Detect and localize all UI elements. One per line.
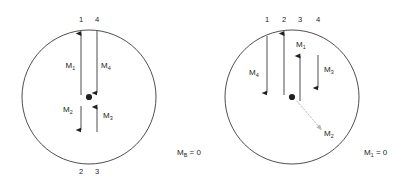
- right-node-number-3: 3: [298, 15, 302, 24]
- left-node-number-2: 2: [79, 167, 83, 176]
- right-circle-diagram: 1 2 3 4 M4 M1 M3 M2 M1 = 0: [225, 15, 388, 164]
- figure-container: 1 4 2 3 M1 M4 M2 M3 MB = 0 1: [0, 0, 415, 178]
- left-moment-label-m2: M2: [63, 105, 73, 115]
- right-moment-label-m2: M2: [324, 129, 334, 139]
- left-caption-moment-equation: MB = 0: [177, 148, 201, 158]
- left-moment-label-m3: M3: [103, 111, 113, 121]
- right-node-number-4: 4: [316, 15, 320, 24]
- left-moment-label-m1: M1: [66, 61, 76, 71]
- right-caption-moment-equation: M1 = 0: [364, 148, 388, 158]
- left-node-number-1: 1: [79, 15, 83, 24]
- right-node-number-2: 2: [282, 15, 286, 24]
- right-moment-label-m1: M1: [296, 40, 306, 50]
- left-moment-label-m4: M4: [101, 61, 111, 71]
- right-moment-arrow-m2-dotted: [297, 101, 320, 128]
- left-node-number-3: 3: [95, 167, 99, 176]
- right-moment-label-m3: M3: [324, 65, 334, 75]
- right-node-number-1: 1: [265, 15, 269, 24]
- right-center-node-dot: [289, 94, 295, 100]
- right-moment-label-m4: M4: [249, 68, 259, 78]
- left-center-node-dot: [86, 94, 92, 100]
- left-node-number-4: 4: [95, 15, 99, 24]
- left-circle-diagram: 1 4 2 3 M1 M4 M2 M3 MB = 0: [22, 15, 201, 176]
